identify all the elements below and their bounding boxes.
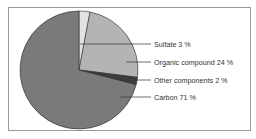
slice-label: Organic compound 24 % (154, 58, 234, 67)
slice-label: Sulfate 3 % (154, 40, 191, 49)
slice-label: Other components 2 % (154, 76, 228, 85)
slice-label: Carbon 71 % (154, 93, 197, 102)
pie-chart: Sulfate 3 %Organic compound 24 %Other co… (0, 0, 256, 139)
